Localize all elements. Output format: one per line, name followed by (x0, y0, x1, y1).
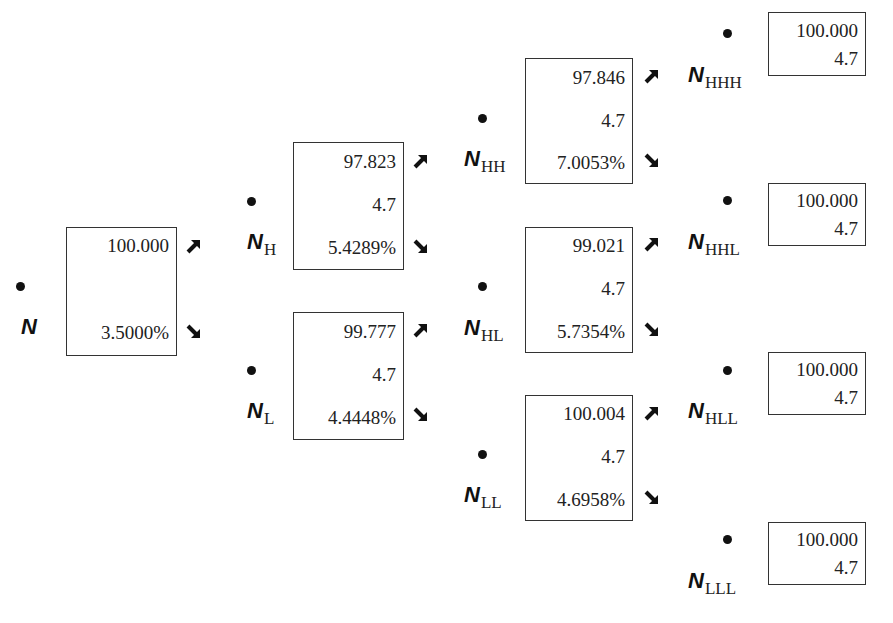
interest-rate: 7.0053% (557, 153, 625, 173)
node-dot-icon (16, 282, 25, 291)
node-value-box: 100.000 4.7 (768, 522, 866, 585)
coupon: 4.7 (834, 219, 858, 239)
coupon: 4.7 (834, 388, 858, 408)
arrow-down-right-icon (412, 238, 430, 256)
node-dot-icon (723, 196, 732, 205)
arrow-up-right-icon (412, 321, 430, 339)
node-label: NHLL (688, 398, 738, 424)
node-label: NLLL (688, 568, 736, 594)
bond-value: 100.000 (796, 360, 858, 380)
node-label: NHHH (688, 62, 742, 88)
bond-value: 100.000 (107, 236, 169, 256)
node-dot-icon (247, 366, 256, 375)
node-dot-icon (723, 366, 732, 375)
arrow-up-right-icon (643, 404, 661, 422)
interest-rate: 4.6958% (557, 490, 625, 510)
arrow-up-right-icon (643, 235, 661, 253)
bond-value: 97.846 (573, 68, 625, 88)
arrow-down-right-icon (412, 406, 430, 424)
coupon: 4.7 (372, 365, 396, 385)
node-dot-icon (247, 197, 256, 206)
interest-rate: 3.5000% (101, 323, 169, 343)
arrow-down-right-icon (643, 489, 661, 507)
node-value-box: 99.777 4.7 4.4448% (293, 312, 404, 440)
bond-value: 100.004 (563, 404, 625, 424)
node-value-box: 97.846 4.7 7.0053% (525, 58, 633, 184)
node-label: NL (247, 398, 274, 424)
coupon: 4.7 (601, 447, 625, 467)
node-value-box: 100.004 4.7 4.6958% (525, 395, 633, 521)
bond-value: 100.000 (796, 191, 858, 211)
bond-value: 97.823 (344, 152, 396, 172)
bond-value: 100.000 (796, 21, 858, 41)
interest-rate: 5.4289% (328, 238, 396, 258)
coupon: 4.7 (834, 49, 858, 69)
coupon: 4.7 (834, 558, 858, 578)
arrow-down-right-icon (643, 152, 661, 170)
node-value-box: 100.000 4.7 (768, 183, 866, 246)
interest-rate: 4.4448% (328, 408, 396, 428)
node-label: NLL (464, 482, 502, 508)
node-label: NHH (464, 146, 505, 172)
bond-value: 99.777 (344, 322, 396, 342)
node-value-box: 97.823 4.7 5.4289% (293, 142, 404, 270)
bond-value: 100.000 (796, 530, 858, 550)
node-dot-icon (723, 535, 732, 544)
arrow-up-right-icon (412, 152, 430, 170)
coupon: 4.7 (601, 111, 625, 131)
coupon: 4.7 (372, 195, 396, 215)
node-value-box: 100.000 3.5000% (66, 227, 177, 356)
bond-value: 99.021 (573, 236, 625, 256)
arrow-up-right-icon (185, 237, 203, 255)
arrow-down-right-icon (185, 323, 203, 341)
node-dot-icon (478, 450, 487, 459)
interest-rate: 5.7354% (557, 322, 625, 342)
node-label: N (21, 314, 38, 340)
node-dot-icon (723, 29, 732, 38)
node-label: NHL (464, 315, 504, 341)
node-value-box: 100.000 4.7 (768, 352, 866, 415)
node-value-box: 99.021 4.7 5.7354% (525, 227, 633, 353)
arrow-down-right-icon (643, 321, 661, 339)
node-label: NHHL (688, 229, 740, 255)
node-dot-icon (478, 114, 487, 123)
coupon: 4.7 (601, 279, 625, 299)
arrow-up-right-icon (643, 67, 661, 85)
node-label: NH (247, 229, 276, 255)
node-dot-icon (478, 282, 487, 291)
node-value-box: 100.000 4.7 (768, 12, 866, 76)
